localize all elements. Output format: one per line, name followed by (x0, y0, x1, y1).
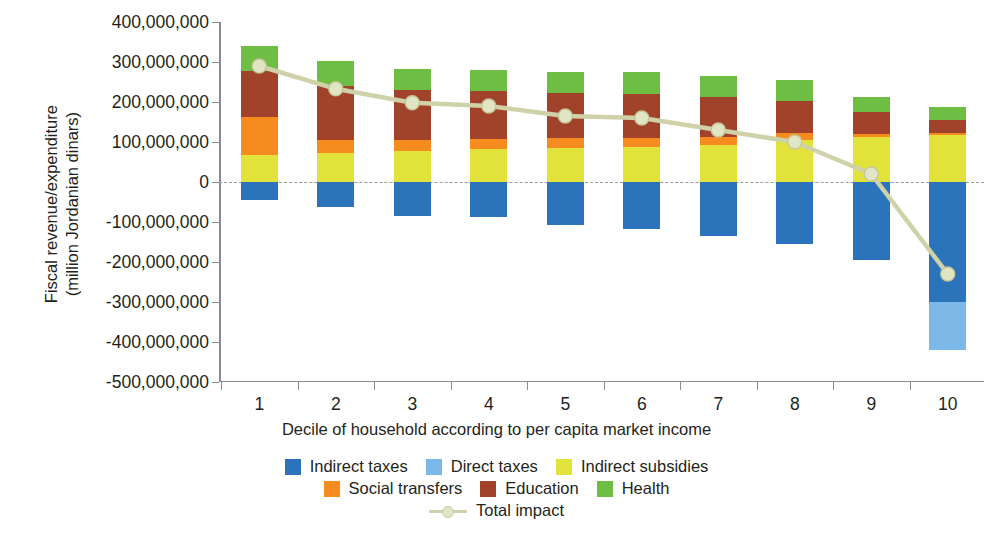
x-axis-tick (221, 382, 222, 390)
legend-color-swatch (556, 459, 572, 475)
bar-group[interactable] (700, 22, 737, 382)
legend-item[interactable]: Indirect taxes (285, 457, 408, 476)
bar-segment[interactable] (623, 182, 660, 229)
bar-group[interactable] (929, 22, 966, 382)
y-axis-tick (212, 302, 219, 303)
plot-area: 400,000,000300,000,000200,000,000100,000… (219, 22, 984, 382)
x-axis-tick (298, 382, 299, 390)
legend-label: Indirect taxes (310, 457, 408, 476)
y-axis-tick-label: 400,000,000 (112, 12, 209, 33)
bar-segment[interactable] (241, 46, 278, 71)
bar-segment[interactable] (929, 107, 966, 121)
bar-segment[interactable] (776, 133, 813, 139)
bar-segment[interactable] (394, 90, 431, 140)
y-axis-tick (212, 342, 219, 343)
x-axis-tick-label: 1 (254, 394, 264, 415)
bar-segment[interactable] (394, 151, 431, 182)
x-axis-tick (527, 382, 528, 390)
bar-segment[interactable] (776, 140, 813, 182)
bar-segment[interactable] (776, 101, 813, 133)
legend-row: Total impact (0, 501, 993, 520)
bar-segment[interactable] (470, 182, 507, 217)
legend-line-swatch (429, 503, 467, 519)
bar-segment[interactable] (317, 153, 354, 182)
bar-segment[interactable] (700, 145, 737, 182)
bar-segment[interactable] (776, 182, 813, 244)
bar-segment[interactable] (317, 182, 354, 207)
bar-segment[interactable] (470, 70, 507, 91)
bar-segment[interactable] (317, 61, 354, 86)
y-axis-tick (212, 222, 219, 223)
bar-segment[interactable] (700, 97, 737, 137)
y-axis-tick (212, 182, 219, 183)
legend-color-swatch (324, 481, 340, 497)
legend-item[interactable]: Health (597, 479, 670, 498)
bar-segment[interactable] (776, 80, 813, 101)
legend-item[interactable]: Direct taxes (426, 457, 538, 476)
bar-segment[interactable] (929, 133, 966, 135)
legend-color-swatch (426, 459, 442, 475)
bar-segment[interactable] (929, 135, 966, 182)
bar-segment[interactable] (547, 182, 584, 225)
bar-segment[interactable] (547, 148, 584, 182)
legend-label: Health (622, 479, 670, 498)
y-axis-tick-label: -200,000,000 (106, 252, 209, 273)
legend-label: Indirect subsidies (581, 457, 708, 476)
legend-item[interactable]: Indirect subsidies (556, 457, 708, 476)
x-axis-tick (604, 382, 605, 390)
bar-segment[interactable] (853, 112, 890, 134)
legend-label: Direct taxes (451, 457, 538, 476)
bar-group[interactable] (547, 22, 584, 382)
bar-segment[interactable] (547, 138, 584, 148)
bar-segment[interactable] (241, 71, 278, 117)
legend-item[interactable]: Total impact (429, 501, 564, 520)
bar-segment[interactable] (853, 137, 890, 182)
x-axis-tick-label: 8 (790, 394, 800, 415)
bar-segment[interactable] (394, 69, 431, 89)
bar-segment[interactable] (929, 120, 966, 133)
bar-segment[interactable] (929, 302, 966, 350)
bar-segment[interactable] (623, 147, 660, 182)
bar-segment[interactable] (623, 72, 660, 94)
bar-segment[interactable] (853, 97, 890, 112)
bar-group[interactable] (241, 22, 278, 382)
bar-segment[interactable] (241, 117, 278, 155)
y-axis-tick (212, 102, 219, 103)
bar-segment[interactable] (470, 139, 507, 149)
bar-segment[interactable] (470, 91, 507, 139)
bar-segment[interactable] (547, 72, 584, 93)
bar-group[interactable] (623, 22, 660, 382)
x-axis-tick (451, 382, 452, 390)
bar-segment[interactable] (929, 182, 966, 302)
bar-segment[interactable] (547, 93, 584, 138)
legend-row: Indirect taxesDirect taxesIndirect subsi… (0, 457, 993, 476)
bar-segment[interactable] (853, 134, 890, 137)
bar-segment[interactable] (623, 138, 660, 147)
bar-group[interactable] (317, 22, 354, 382)
y-axis-tick (212, 62, 219, 63)
bar-segment[interactable] (853, 182, 890, 260)
bar-segment[interactable] (394, 140, 431, 151)
x-axis-tick (757, 382, 758, 390)
bar-segment[interactable] (623, 94, 660, 138)
bar-segment[interactable] (394, 182, 431, 216)
legend-item[interactable]: Social transfers (324, 479, 463, 498)
bar-segment[interactable] (700, 182, 737, 236)
y-axis-tick (212, 382, 219, 383)
bar-segment[interactable] (241, 182, 278, 200)
y-axis-tick-label: 300,000,000 (112, 52, 209, 73)
x-axis-tick (910, 382, 911, 390)
legend-color-swatch (285, 459, 301, 475)
x-axis-tick-label: 5 (560, 394, 570, 415)
bar-segment[interactable] (700, 76, 737, 97)
bar-segment[interactable] (317, 86, 354, 140)
bar-segment[interactable] (317, 140, 354, 153)
bar-group[interactable] (853, 22, 890, 382)
bar-segment[interactable] (241, 155, 278, 182)
bar-segment[interactable] (470, 149, 507, 182)
bar-group[interactable] (394, 22, 431, 382)
bar-segment[interactable] (700, 137, 737, 145)
legend-item[interactable]: Education (480, 479, 578, 498)
bar-group[interactable] (776, 22, 813, 382)
bar-group[interactable] (470, 22, 507, 382)
